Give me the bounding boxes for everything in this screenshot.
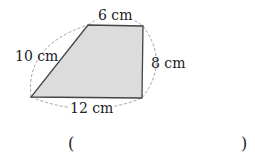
answer-close-paren: ) (241, 136, 247, 152)
top-side-label: 6 cm (97, 8, 133, 22)
answer-blank[interactable] (80, 136, 235, 152)
bottom-side-label: 12 cm (69, 101, 114, 115)
left-side-label: 10 cm (15, 49, 58, 63)
right-side-label: 8 cm (151, 56, 185, 70)
answer-open-paren: ( (68, 136, 74, 152)
